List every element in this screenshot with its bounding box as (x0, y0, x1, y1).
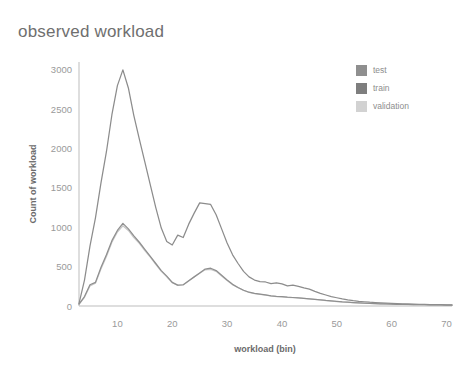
x-tick-labels: 10203040506070 (112, 318, 452, 329)
x-tick-label: 70 (441, 318, 452, 329)
x-axis-title: workload (bin) (233, 344, 296, 354)
y-tick-labels: 050010001500200025003000 (51, 64, 72, 311)
chart-legend: test train validation (356, 64, 409, 112)
series-line-test (79, 223, 452, 305)
legend-label-train: train (373, 83, 390, 94)
x-tick-label: 20 (167, 318, 178, 329)
y-tick-label: 3000 (51, 64, 72, 75)
legend-swatch-test (356, 65, 367, 76)
legend-swatch-train (356, 83, 367, 94)
y-tick-label: 2000 (51, 143, 72, 154)
legend-label-test: test (373, 65, 387, 76)
legend-item-train[interactable]: train (356, 82, 409, 94)
x-tick-label: 10 (112, 318, 123, 329)
x-tick-label: 60 (386, 318, 397, 329)
x-tick-label: 50 (332, 318, 343, 329)
x-tick-label: 30 (222, 318, 233, 329)
y-tick-label: 2500 (51, 104, 72, 115)
legend-item-validation[interactable]: validation (356, 100, 409, 112)
x-tick-label: 40 (277, 318, 288, 329)
legend-swatch-validation (356, 101, 367, 112)
y-tick-label: 1000 (51, 222, 72, 233)
legend-item-test[interactable]: test (356, 64, 409, 76)
y-tick-label: 500 (56, 261, 72, 272)
y-axis-title: Count of workload (28, 145, 38, 224)
y-tick-label: 0 (67, 301, 72, 312)
y-tick-label: 1500 (51, 182, 72, 193)
legend-label-validation: validation (373, 101, 409, 112)
chart-figure: observed workload 0500100015002000250030… (0, 0, 469, 383)
plot-area: 050010001500200025003000 10203040506070 … (0, 0, 469, 383)
